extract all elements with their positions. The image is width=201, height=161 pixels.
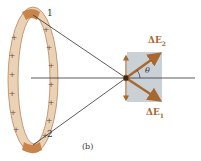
- field-point: [123, 75, 129, 81]
- delta-e1-label: ΔE1: [146, 107, 164, 119]
- svg-text:+: +: [43, 25, 50, 34]
- svg-text:+: +: [48, 80, 55, 89]
- svg-text:+: +: [9, 51, 16, 60]
- delta-e2-subscript: 2: [162, 40, 166, 47]
- segment-label-2: 2: [47, 129, 53, 139]
- delta-e1-symbol: ΔE: [146, 107, 160, 117]
- segment-label-1: 1: [47, 8, 53, 18]
- figure-caption: (b): [82, 142, 93, 151]
- svg-text:+: +: [46, 116, 53, 125]
- svg-text:+: +: [11, 33, 18, 42]
- svg-text:+: +: [9, 70, 16, 79]
- component-box: [127, 52, 162, 102]
- theta-label: θ: [145, 66, 150, 75]
- svg-text:+: +: [48, 98, 55, 107]
- ring-field-diagram: + + + + + + + + + + + + +: [0, 0, 201, 161]
- svg-text:+: +: [9, 89, 16, 98]
- svg-text:+: +: [13, 125, 20, 134]
- svg-text:+: +: [10, 108, 17, 117]
- delta-e1-subscript: 1: [160, 112, 164, 119]
- svg-text:+: +: [48, 61, 55, 70]
- delta-e2-symbol: ΔE: [148, 35, 162, 45]
- delta-e2-label: ΔE2: [148, 35, 166, 47]
- svg-text:+: +: [46, 43, 53, 52]
